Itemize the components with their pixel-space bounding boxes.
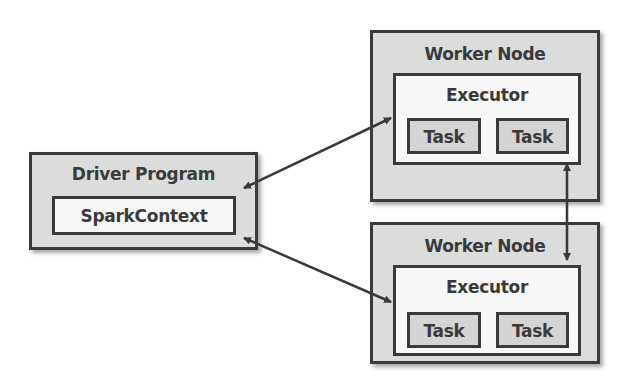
connection-arrows — [0, 0, 633, 386]
arrow-driver-to-worker-2 — [244, 238, 391, 302]
arrow-driver-to-worker-1 — [244, 118, 391, 188]
